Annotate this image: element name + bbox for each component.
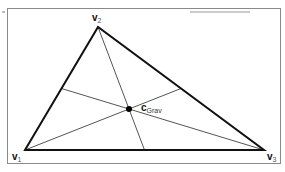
vertex-label-v3: v3 <box>267 152 276 162</box>
vertex-v1-name: v <box>12 151 18 162</box>
vertex-v3-sub: 3 <box>273 156 277 163</box>
centroid-name: c <box>141 102 147 113</box>
centroid-point <box>126 106 132 112</box>
vertex-v1-sub: 1 <box>18 156 22 163</box>
triangle-diagram <box>0 0 285 172</box>
median-v1 <box>25 89 181 151</box>
vertex-v3-name: v <box>267 151 273 162</box>
vertex-label-v1: v1 <box>12 152 21 162</box>
median-v3 <box>62 89 265 151</box>
centroid-sub: Grav <box>147 107 162 114</box>
triangle-edges <box>25 27 264 150</box>
vertex-label-v2: v2 <box>92 13 101 23</box>
centroid-label: cGrav <box>141 103 162 113</box>
vertex-v2-sub: 2 <box>98 17 102 24</box>
vertex-v2-name: v <box>92 12 98 23</box>
